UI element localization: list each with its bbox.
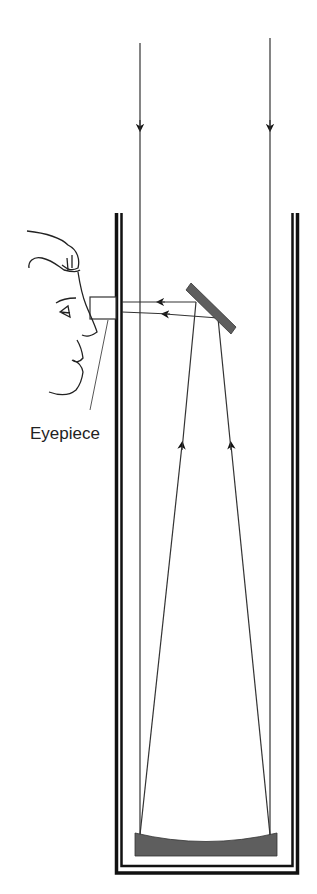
reflected-rays [140, 302, 270, 835]
eyepiece [90, 297, 116, 410]
primary-mirror [135, 833, 277, 856]
observer-face-icon [27, 231, 97, 394]
eyepiece-label: Eyepiece [30, 424, 100, 444]
incoming-light-rays [140, 38, 270, 836]
telescope-diagram [0, 0, 317, 894]
